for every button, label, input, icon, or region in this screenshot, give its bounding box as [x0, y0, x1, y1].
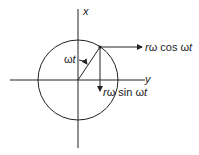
rotating-vector-diagram: x y ωt rω cos ωt rω sin ωt	[0, 0, 199, 155]
cos-component-label: rω cos ωt	[145, 41, 193, 53]
y-axis-label: y	[144, 73, 152, 85]
x-axis-label: x	[82, 5, 89, 17]
angle-arc-icon	[79, 60, 87, 64]
sin-component-label: rω sin ωt	[103, 86, 148, 98]
radius-line	[78, 47, 100, 80]
angle-label: ωt	[64, 53, 77, 65]
